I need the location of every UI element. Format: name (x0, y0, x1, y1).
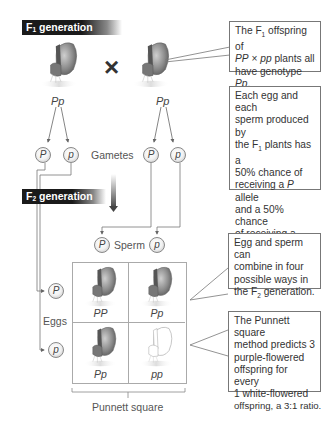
text: and a 50% chance (235, 204, 315, 228)
text: The F (235, 25, 262, 36)
text: offspring for every (234, 364, 315, 388)
egg-p: p (48, 342, 64, 358)
text: Each egg and each (235, 90, 315, 114)
text: possible ways in (234, 274, 315, 286)
cell-genotype: Pp (73, 368, 128, 380)
callout-ratio: The Punnett square method predicts 3 pur… (228, 311, 321, 392)
punnett-square-label: Punnett square (92, 401, 163, 413)
allele: P (287, 179, 294, 190)
text: 50% chance of (235, 167, 315, 179)
purple-flower-icon (73, 263, 129, 307)
eggs-label: Eggs (43, 315, 67, 327)
text: the F (235, 139, 258, 150)
white-flower-icon (129, 323, 185, 367)
genotype: pp (260, 53, 271, 64)
gamete-left-P: P (35, 147, 51, 163)
punnett-cell-pp: pp (129, 323, 185, 383)
text: receiving a (235, 179, 287, 190)
gamete-right-P: P (143, 147, 159, 163)
f1-right-flower-icon (132, 43, 169, 87)
punnett-square: PP Pp Pp pp (72, 262, 187, 384)
gametes-label: Gametes (91, 149, 134, 161)
text: plants all (272, 53, 315, 64)
f1-left-genotype: Pp (51, 95, 64, 107)
gamete-right-p: p (170, 147, 186, 163)
cell-genotype: pp (129, 368, 185, 380)
text: The Punnett square (234, 315, 315, 339)
cell-genotype: Pp (129, 307, 185, 319)
sperm-p: p (149, 237, 165, 253)
text: method predicts 3 (234, 339, 315, 351)
text: have genotype (235, 66, 302, 77)
cell-genotype: PP (73, 307, 128, 319)
punnett-cell-Pp-top: Pp (129, 263, 185, 323)
text: allele (235, 192, 259, 203)
text: offspring, a 3:1 ratio. (234, 400, 315, 412)
callout-four-ways: Egg and sperm can combine in four possib… (228, 233, 321, 289)
text: sperm produced by (235, 114, 315, 138)
purple-flower-icon (129, 263, 185, 307)
sperm-P: P (94, 237, 110, 253)
egg-P: P (48, 283, 64, 299)
genotype: PP (235, 53, 249, 64)
text: 1 white-flowered (234, 388, 315, 400)
punnett-cell-PP: PP (73, 263, 129, 323)
sperm-label: Sperm (114, 239, 145, 251)
f1-left-flower-icon (40, 43, 77, 87)
punnett-cell-Pp-bottom: Pp (73, 323, 129, 383)
gamete-left-p: p (63, 147, 79, 163)
text: Egg and sperm can (234, 237, 315, 261)
callout-f1-offspring: The F1 offspring of PP × pp plants all h… (229, 21, 321, 72)
text: purple-flowered (234, 352, 315, 364)
banner-text: generation (36, 190, 93, 202)
text: combine in four (234, 261, 315, 273)
cross-symbol: × (104, 54, 119, 80)
text: generation. (261, 286, 315, 297)
callout-gametes-chance: Each egg and each sperm produced by the … (229, 86, 321, 190)
text: × (249, 53, 261, 64)
f2-generation-banner: F2 generation (22, 189, 106, 204)
text: the F (234, 286, 257, 297)
f1-right-genotype: Pp (156, 95, 169, 107)
purple-flower-icon (73, 323, 129, 367)
